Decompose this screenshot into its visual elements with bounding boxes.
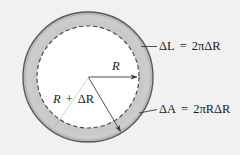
delta-a-equation-label: ΔA=2πRΔR bbox=[159, 103, 230, 116]
inner-radius-label: R bbox=[112, 60, 120, 73]
annulus-diagram bbox=[0, 0, 240, 155]
outer-radius-label-plus: + bbox=[66, 92, 73, 106]
delta-l-rhs: 2πΔR bbox=[192, 39, 221, 53]
outer-radius-label-delta-r: ΔR bbox=[78, 92, 94, 106]
outer-radius-label: R+ΔR bbox=[53, 93, 94, 106]
delta-l-equation-label: ΔL=2πΔR bbox=[159, 40, 221, 53]
figure-container: ΔL=2πΔR ΔA=2πRΔR R R+ΔR bbox=[0, 0, 240, 155]
delta-a-rhs: 2πRΔR bbox=[193, 102, 230, 116]
outer-radius-label-r: R bbox=[53, 92, 61, 106]
delta-l-equals: = bbox=[180, 39, 187, 53]
delta-l-lhs: ΔL bbox=[159, 39, 175, 53]
delta-a-lhs: ΔA bbox=[159, 102, 176, 116]
